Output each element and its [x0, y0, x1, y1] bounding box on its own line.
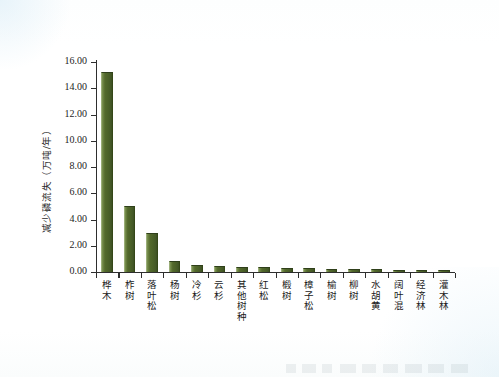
y-tick-label: 12.00 — [65, 108, 88, 119]
bar — [393, 270, 405, 272]
x-tick-label: 杨树 — [168, 280, 182, 301]
y-tick-label: 4.00 — [70, 213, 88, 224]
y-tick-label: 10.00 — [65, 134, 88, 145]
x-tick-label: 桦木 — [100, 280, 114, 301]
bar — [438, 270, 450, 272]
bar — [214, 266, 226, 272]
bar — [371, 269, 383, 272]
x-tick-label: 红松 — [257, 280, 271, 301]
x-tick-mark — [118, 273, 119, 278]
bar-chart-figure: 减少磷流失（万吨/年） 0.002.004.006.008.0010.0012.… — [0, 0, 499, 377]
x-tick-mark — [186, 273, 187, 278]
bars-layer — [96, 62, 455, 272]
x-tick-mark — [388, 273, 389, 278]
x-tick-label: 水胡黄 — [369, 280, 383, 312]
x-tick-mark — [298, 273, 299, 278]
y-tick-label: 6.00 — [70, 186, 88, 197]
x-tick-mark — [208, 273, 209, 278]
x-tick-label: 柳树 — [347, 280, 361, 301]
x-tick-mark — [320, 273, 321, 278]
x-tick-label: 柞树 — [123, 280, 137, 301]
x-tick-label: 樟子松 — [302, 280, 316, 312]
bar — [236, 267, 248, 272]
y-tick-label: 14.00 — [65, 81, 88, 92]
x-tick-mark — [365, 273, 366, 278]
x-tick-label: 经济林 — [414, 280, 428, 312]
x-tick-label: 冷杉 — [190, 280, 204, 301]
x-tick-mark — [253, 273, 254, 278]
x-tick-mark — [410, 273, 411, 278]
bar — [124, 206, 136, 272]
x-tick-label: 榆树 — [325, 280, 339, 301]
bar — [169, 261, 181, 272]
bar — [101, 72, 113, 272]
x-tick-mark — [276, 273, 277, 278]
x-tick-mark — [141, 273, 142, 278]
x-tick-mark — [433, 273, 434, 278]
x-tick-mark — [343, 273, 344, 278]
bar — [303, 268, 315, 272]
y-axis-title: 减少磷流失（万吨/年） — [39, 89, 53, 269]
bar — [348, 269, 360, 272]
y-tick-label: 2.00 — [70, 239, 88, 250]
x-tick-label: 阔叶混 — [392, 280, 406, 312]
bar — [146, 233, 158, 272]
x-tick-mark — [455, 273, 456, 278]
x-tick-label: 椴树 — [280, 280, 294, 301]
x-tick-label: 灌木林 — [437, 280, 451, 312]
x-tick-mark — [96, 273, 97, 278]
x-tick-mark — [163, 273, 164, 278]
bar — [416, 270, 428, 272]
cropped-caption-remnant — [286, 364, 482, 373]
bar — [326, 269, 338, 272]
y-tick-label: 0.00 — [70, 265, 88, 276]
x-tick-label: 落叶松 — [145, 280, 159, 312]
y-tick-label: 8.00 — [70, 160, 88, 171]
bar — [281, 268, 293, 272]
x-tick-label: 云杉 — [212, 280, 226, 301]
y-tick-label: 16.00 — [65, 55, 88, 66]
x-tick-label: 其他树种 — [235, 280, 249, 322]
bar — [258, 267, 270, 272]
bar — [191, 265, 203, 272]
x-tick-mark — [231, 273, 232, 278]
